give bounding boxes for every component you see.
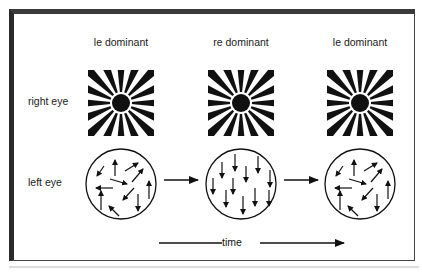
sunburst-1 xyxy=(61,43,181,163)
sunburst-2 xyxy=(181,43,301,163)
time-axis-label: time xyxy=(222,236,242,248)
dot-field-random-2 xyxy=(325,149,395,219)
dot-field-coherent xyxy=(206,149,276,219)
diagram-canvas xyxy=(0,0,422,272)
dot-field-random-1 xyxy=(86,149,156,219)
sunburst-3 xyxy=(300,43,420,163)
